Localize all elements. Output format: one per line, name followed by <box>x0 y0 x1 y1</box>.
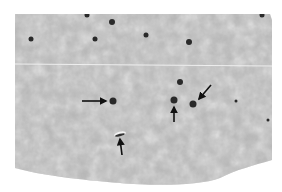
stained-nucleus <box>190 101 197 108</box>
stained-nucleus <box>109 19 115 25</box>
stained-nucleus <box>177 79 183 85</box>
stained-nucleus <box>235 100 238 103</box>
stained-nucleus <box>144 33 149 38</box>
tissue-section <box>0 0 282 192</box>
stained-nucleus <box>171 97 178 104</box>
stained-nucleus <box>85 13 90 18</box>
stained-nucleus <box>29 37 34 42</box>
stained-nucleus <box>110 98 117 105</box>
stained-nucleus <box>186 39 192 45</box>
stained-nucleus <box>260 13 265 18</box>
stained-nucleus <box>93 37 98 42</box>
micrograph-figure <box>0 0 282 192</box>
stained-nucleus <box>267 119 270 122</box>
